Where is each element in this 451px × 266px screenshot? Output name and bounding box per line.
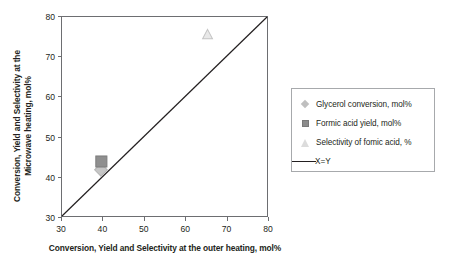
legend-item-label: Selectivity of fomic acid, % [316,138,412,147]
x-tick-mark [227,217,228,221]
legend-item-identity-line[interactable]: X=Y [292,152,434,171]
legend-item-label: Formic acid yield, mol% [316,119,401,128]
y-tick-label-50: 50 [33,133,55,143]
x-axis-title: Conversion, Yield and Selectivity at the… [40,243,290,253]
data-point-selectivity-triangle [203,29,213,39]
triangle-marker-icon [298,136,316,150]
x-tick-label-60: 60 [173,224,197,234]
legend-item-label: Glycerol conversion, mol% [316,100,412,109]
x-tick-label-70: 70 [215,224,239,234]
legend-item-formic-acid-yield[interactable]: Formic acid yield, mol% [292,114,434,133]
y-tick-label-70: 70 [33,52,55,62]
x-tick-label-30: 30 [49,224,73,234]
y-axis-title-line1: Conversion, Yield and Selectivity at the [12,50,24,202]
x-tick-mark [144,217,145,221]
x-tick-label-80: 80 [256,224,280,234]
x-tick-label-50: 50 [132,224,156,234]
legend-item-glycerol-conversion[interactable]: Glycerol conversion, mol% [292,95,434,114]
diamond-marker-icon [298,98,316,112]
legend: Glycerol conversion, mol% Formic acid yi… [291,88,435,172]
plot-canvas [62,17,267,216]
line-marker-icon [298,155,316,169]
x-tick-mark [61,217,62,221]
plot-area [61,16,268,217]
x-tick-mark [268,217,269,221]
y-tick-label-30: 30 [33,213,55,223]
identity-line-x-equals-y [62,17,267,216]
y-tick-label-40: 40 [33,173,55,183]
scatter-chart: Conversion, Yield and Selectivity at the… [0,0,451,266]
y-tick-label-80: 80 [33,12,55,22]
square-marker-icon [298,117,316,131]
x-tick-mark [185,217,186,221]
y-tick-label-60: 60 [33,92,55,102]
data-point-formic-acid-yield-square [96,156,107,167]
legend-item-selectivity-formic-acid[interactable]: Selectivity of fomic acid, % [292,133,434,152]
x-tick-mark [102,217,103,221]
x-tick-label-40: 40 [90,224,114,234]
legend-item-label: X=Y [315,157,331,166]
